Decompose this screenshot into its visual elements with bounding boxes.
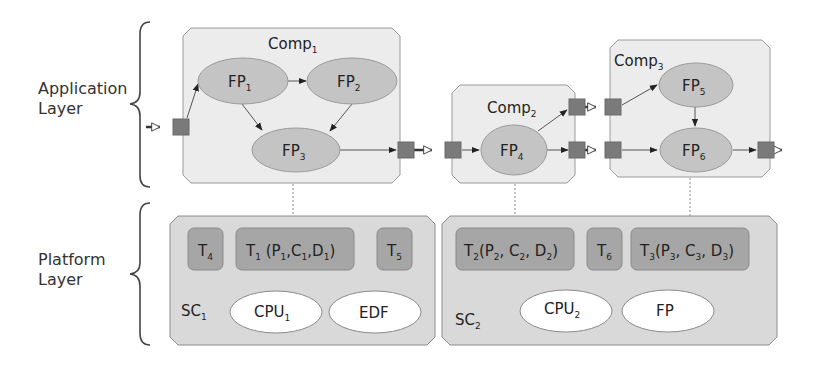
port-comp3-out bbox=[758, 142, 774, 158]
port-comp3-in-upper bbox=[605, 99, 621, 115]
port-comp1-in bbox=[173, 119, 189, 135]
architecture-diagram: Application Layer Platform Layer Comp1 C… bbox=[0, 0, 827, 368]
scheduler-sc1[interactable]: T4 T1 (P1,C1,D1) T5 SC1 CPU1 EDF bbox=[170, 216, 435, 345]
layer-label-line1: Application bbox=[38, 79, 127, 98]
component-label: Comp1 bbox=[268, 35, 318, 55]
resource-edf[interactable]: EDF bbox=[329, 291, 421, 333]
resource-label: FP bbox=[656, 302, 674, 320]
task-t1[interactable]: T1 (P1,C1,D1) bbox=[236, 228, 354, 270]
layer-label-line1: Platform bbox=[38, 250, 105, 269]
task-t6[interactable]: T6 bbox=[587, 228, 622, 270]
port-comp2-in bbox=[445, 142, 461, 158]
resource-fp[interactable]: FP bbox=[622, 290, 714, 332]
resource-label: EDF bbox=[359, 304, 389, 322]
task-t2[interactable]: T2(P2, C2, D2) bbox=[456, 228, 574, 270]
task-t3[interactable]: T3(P3, C3, D3) bbox=[631, 228, 749, 270]
function-point-fp2[interactable]: FP2 bbox=[307, 58, 397, 104]
layer-label-line2: Layer bbox=[38, 270, 83, 289]
task-t5[interactable]: T5 bbox=[377, 228, 412, 270]
component-label: Comp2 bbox=[487, 99, 537, 119]
task-t4[interactable]: T4 bbox=[188, 228, 223, 270]
platform-layer-brace bbox=[130, 203, 150, 345]
function-point-fp3[interactable]: FP3 bbox=[252, 128, 340, 172]
port-comp2-out-lower bbox=[569, 142, 585, 158]
port-comp3-in-lower bbox=[605, 142, 621, 158]
port-comp1-out bbox=[398, 142, 414, 158]
application-layer-brace bbox=[130, 22, 150, 187]
application-layer-label: Application Layer bbox=[38, 79, 127, 118]
platform-layer-label: Platform Layer bbox=[38, 250, 105, 289]
function-point-fp1[interactable]: FP1 bbox=[198, 58, 288, 104]
resource-cpu1[interactable]: CPU1 bbox=[230, 291, 322, 333]
function-point-fp4[interactable]: FP4 bbox=[481, 125, 547, 175]
layer-label-line2: Layer bbox=[38, 99, 83, 118]
resource-cpu2[interactable]: CPU2 bbox=[520, 290, 612, 332]
scheduler-sc2[interactable]: T2(P2, C2, D2) T6 T3(P3, C3, D3) SC2 CPU… bbox=[442, 216, 777, 345]
component-label: Comp3 bbox=[614, 52, 664, 72]
port-comp2-out-upper bbox=[569, 99, 585, 115]
function-point-fp5[interactable]: FP5 bbox=[659, 63, 733, 107]
function-point-fp6[interactable]: FP6 bbox=[660, 128, 732, 172]
